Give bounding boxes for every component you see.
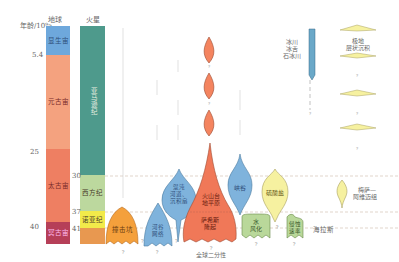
svg-text:石冰川: 石冰川: [283, 52, 301, 60]
svg-text:?: ?: [309, 111, 311, 116]
svg-text:河谷: 河谷: [152, 223, 164, 231]
svg-text:?: ?: [276, 224, 279, 230]
svg-text:混沌: 混沌: [173, 183, 185, 191]
svg-text:?: ?: [255, 241, 258, 247]
svg-text:峡谷: 峡谷: [234, 184, 246, 192]
svg-text:隆起: 隆起: [204, 223, 216, 231]
svg-text:水: 水: [253, 218, 259, 225]
svg-text:?: ?: [356, 73, 358, 78]
dichotomy-label: 全球二分性: [196, 251, 226, 259]
svg-text:侵蚀: 侵蚀: [289, 220, 301, 228]
svg-text:?: ?: [356, 146, 358, 151]
feature-diagram: ? ? 撞击坑 ? 河谷 网络 ? ? ? 混沌 河道、 沉积扇 火山台 地平原…: [0, 0, 399, 262]
svg-text:层状沉积: 层状沉积: [346, 44, 370, 52]
svg-text:?: ?: [293, 241, 296, 247]
svg-text:河道、: 河道、: [170, 190, 188, 198]
svg-text:冰川: 冰川: [286, 38, 298, 45]
svg-text:?: ?: [122, 249, 125, 255]
svg-text:?: ?: [156, 249, 159, 255]
hellas-label: 海拉斯: [313, 225, 334, 234]
svg-text:?: ?: [208, 64, 210, 69]
svg-text:风化: 风化: [250, 225, 262, 233]
svg-text:硫酸盐: 硫酸盐: [266, 189, 284, 197]
crater-label: 撞击坑: [112, 225, 133, 234]
svg-text:?: ?: [141, 238, 144, 244]
svg-text:速率: 速率: [289, 227, 301, 235]
svg-text:?: ?: [356, 111, 358, 116]
svg-text:阿维迈组: 阿维迈组: [353, 193, 377, 201]
svg-text:网络: 网络: [152, 230, 164, 238]
svg-text:沉积扇: 沉积扇: [170, 197, 188, 205]
svg-text:?: ?: [208, 101, 210, 106]
svg-text:地平原: 地平原: [202, 199, 220, 207]
